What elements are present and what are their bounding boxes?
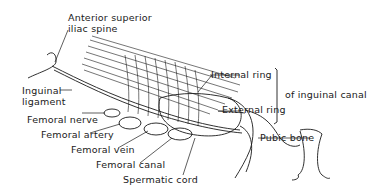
inguinal-canal-bracket: [274, 68, 277, 124]
pubic-bone-label: Pubic bone: [260, 132, 314, 143]
muscle-fibers: [82, 36, 240, 126]
femoral-vein-label: Femoral vein: [71, 144, 135, 155]
external-ring-label: External ring: [222, 104, 286, 115]
spermatic-cord-label: Spermatic cord: [123, 174, 198, 185]
asis-label: Anterior superior iliac spine: [68, 12, 152, 34]
iliac-spine-outline: [28, 53, 56, 78]
femoral-canal-label: Femoral canal: [96, 159, 165, 170]
asis-label-line1: Anterior superior: [68, 12, 152, 23]
internal-ring-label: Internal ring: [211, 69, 272, 80]
femoral-nerve-label: Femoral nerve: [27, 114, 98, 125]
inguinal-ligament-label: Inguinal ligament: [22, 85, 66, 107]
femoral-nerve-shape: [104, 109, 120, 117]
inguinal-ligament-label-line1: Inguinal: [22, 85, 66, 96]
femoral-vein-shape: [144, 123, 168, 135]
femoral-artery-label: Femoral artery: [41, 129, 114, 140]
femoral-artery-shape: [119, 117, 141, 129]
asis-label-line2: iliac spine: [68, 23, 152, 34]
of-inguinal-canal-label: of inguinal canal: [285, 89, 367, 100]
inguinal-ligament-label-line2: ligament: [22, 96, 66, 107]
